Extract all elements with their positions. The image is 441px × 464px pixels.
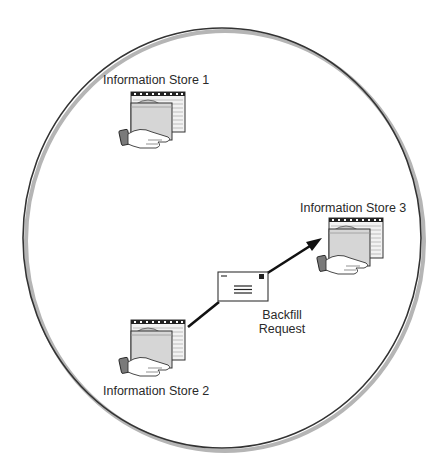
store3-label: Information Store 3 (300, 201, 406, 215)
information-store-icon (316, 216, 386, 278)
information-store-icon (118, 318, 188, 380)
edge-label-line2: Request (252, 322, 312, 336)
envelope-icon (217, 271, 270, 303)
information-store-icon (118, 90, 188, 152)
store2-label: Information Store 2 (103, 384, 209, 398)
store1-label: Information Store 1 (103, 73, 209, 87)
backfill-request-label: Backfill Request (252, 308, 312, 336)
edge-label-line1: Backfill (252, 308, 312, 322)
diagram-canvas: Information Store 1 Information Store 2 … (0, 0, 441, 464)
